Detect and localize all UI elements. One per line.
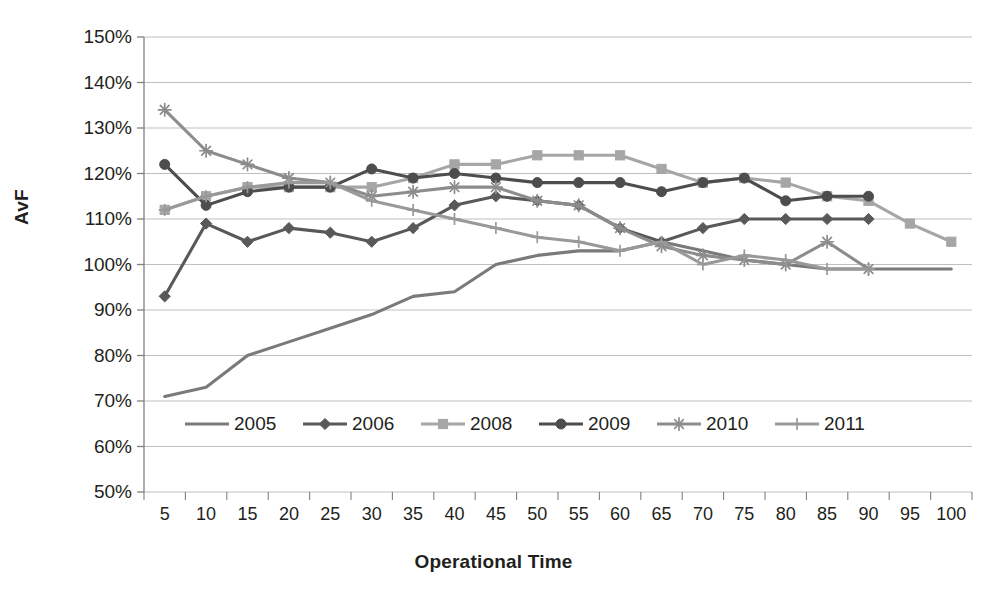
y-tick-label: 130% <box>50 118 132 137</box>
y-tick-label: 120% <box>50 164 132 183</box>
legend-item-2005[interactable]: 2005 <box>234 414 276 433</box>
legend-item-2009[interactable]: 2009 <box>588 414 630 433</box>
legend-item-2008[interactable]: 2008 <box>470 414 512 433</box>
y-tick-label: 60% <box>50 437 132 456</box>
legend-item-2011[interactable]: 2011 <box>824 414 865 433</box>
legend-item-2006[interactable]: 2006 <box>352 414 394 433</box>
y-tick-label: 150% <box>50 27 132 46</box>
legend-item-2010[interactable]: 2010 <box>706 414 748 433</box>
y-tick-label: 90% <box>50 300 132 319</box>
y-tick-label: 140% <box>50 73 132 92</box>
y-tick-label: 70% <box>50 391 132 410</box>
y-tick-label: 80% <box>50 346 132 365</box>
y-tick-label: 50% <box>50 482 132 501</box>
y-tick-label: 110% <box>50 209 132 228</box>
y-tick-label: 100% <box>50 255 132 274</box>
chart-container: AvF Operational Time 50%60%70%80%90%100%… <box>0 0 987 602</box>
x-tick-label: 100 <box>926 505 976 523</box>
series-line <box>165 196 869 296</box>
series-2006 <box>159 191 874 302</box>
